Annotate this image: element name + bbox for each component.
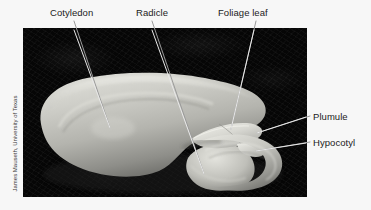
label-foliage-leaf: Foliage leaf <box>218 7 268 18</box>
seed-photograph <box>23 28 307 197</box>
photo-credit: James Mauseth, University of Texas <box>12 96 19 192</box>
cotyledon-sheen <box>91 117 135 139</box>
label-radicle: Radicle <box>136 7 168 18</box>
label-plumule: Plumule <box>313 111 348 122</box>
figure-container: Cotyledon Radicle Foliage leaf Plumule H… <box>0 0 371 210</box>
label-cotyledon: Cotyledon <box>50 7 93 18</box>
bean-seed-illustration <box>23 28 307 197</box>
label-hypocotyl: Hypocotyl <box>313 137 355 148</box>
